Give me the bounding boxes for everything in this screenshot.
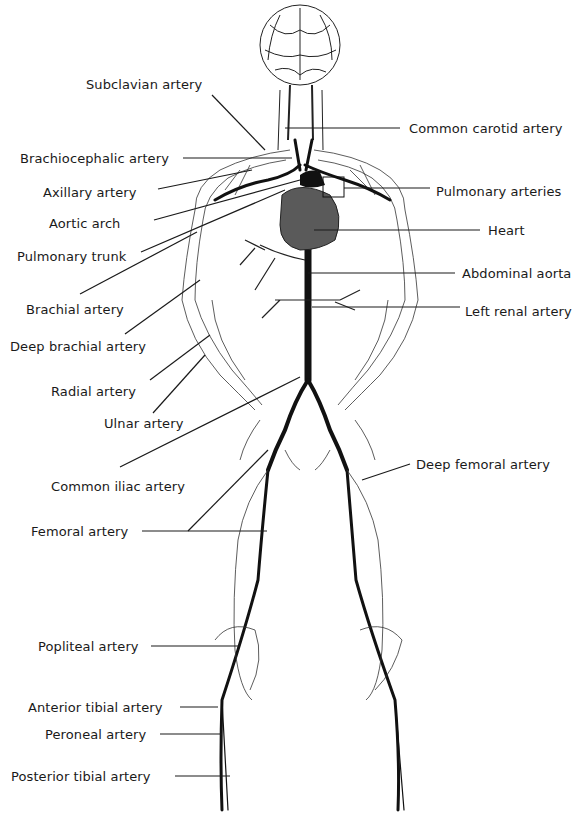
label-common-iliac-artery: Common iliac artery [51, 479, 185, 494]
label-anterior-tibial-artery: Anterior tibial artery [28, 700, 163, 715]
leg-vessels [215, 420, 402, 700]
label-abdominal-aorta: Abdominal aorta [462, 266, 571, 281]
label-axillary-artery: Axillary artery [43, 185, 137, 200]
label-popliteal-artery: Popliteal artery [38, 639, 139, 654]
label-posterior-tibial-artery: Posterior tibial artery [11, 769, 151, 784]
label-pulmonary-arteries: Pulmonary arteries [436, 184, 561, 199]
label-pulmonary-trunk: Pulmonary trunk [17, 249, 126, 264]
label-subclavian-artery: Subclavian artery [86, 77, 202, 92]
label-common-carotid-artery: Common carotid artery [409, 121, 562, 136]
label-brachial-artery: Brachial artery [26, 302, 124, 317]
lung-branches [240, 240, 360, 318]
artery-diagram: Subclavian artery Brachiocephalic artery… [0, 0, 588, 815]
label-heart: Heart [488, 223, 525, 238]
label-deep-femoral-artery: Deep femoral artery [416, 457, 550, 472]
label-aortic-arch: Aortic arch [49, 216, 120, 231]
leader-lines [80, 95, 480, 776]
label-brachiocephalic-artery: Brachiocephalic artery [20, 151, 169, 166]
label-femoral-artery: Femoral artery [31, 524, 128, 539]
label-deep-brachial-artery: Deep brachial artery [10, 339, 146, 354]
label-left-renal-artery: Left renal artery [465, 304, 572, 319]
label-peroneal-artery: Peroneal artery [45, 727, 146, 742]
label-ulnar-artery: Ulnar artery [104, 416, 183, 431]
label-radial-artery: Radial artery [51, 384, 136, 399]
